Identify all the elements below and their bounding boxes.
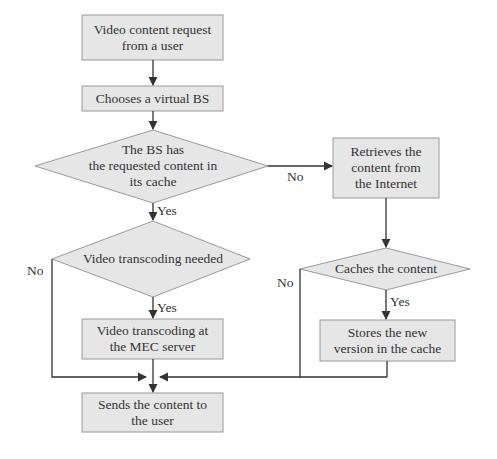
has-content-no-label: No: [287, 170, 304, 184]
has-content-yes-label: Yes: [157, 204, 177, 218]
transcode-needed-label: Video transcoding needed: [72, 250, 234, 268]
transcode-label: Video transcoding at the MEC server: [82, 319, 223, 359]
store-label: Stores the new version in the cache: [320, 320, 455, 361]
transcode-needed-no-label: No: [27, 264, 44, 278]
has-content-label: The BS has the requested content in its …: [63, 137, 243, 195]
caches-no-label: No: [277, 276, 294, 290]
choose-bs-label: Chooses a virtual BS: [82, 86, 223, 111]
start-label: Video content request from a user: [82, 15, 223, 60]
caches-label: Caches the content: [316, 260, 456, 278]
transcode-needed-yes-label: Yes: [157, 301, 177, 315]
flowchart-canvas: [0, 0, 497, 459]
retrieve-label: Retrieves the content from the Internet: [333, 138, 439, 198]
send-label: Sends the content to the user: [82, 393, 223, 432]
caches-yes-label: Yes: [390, 295, 410, 309]
